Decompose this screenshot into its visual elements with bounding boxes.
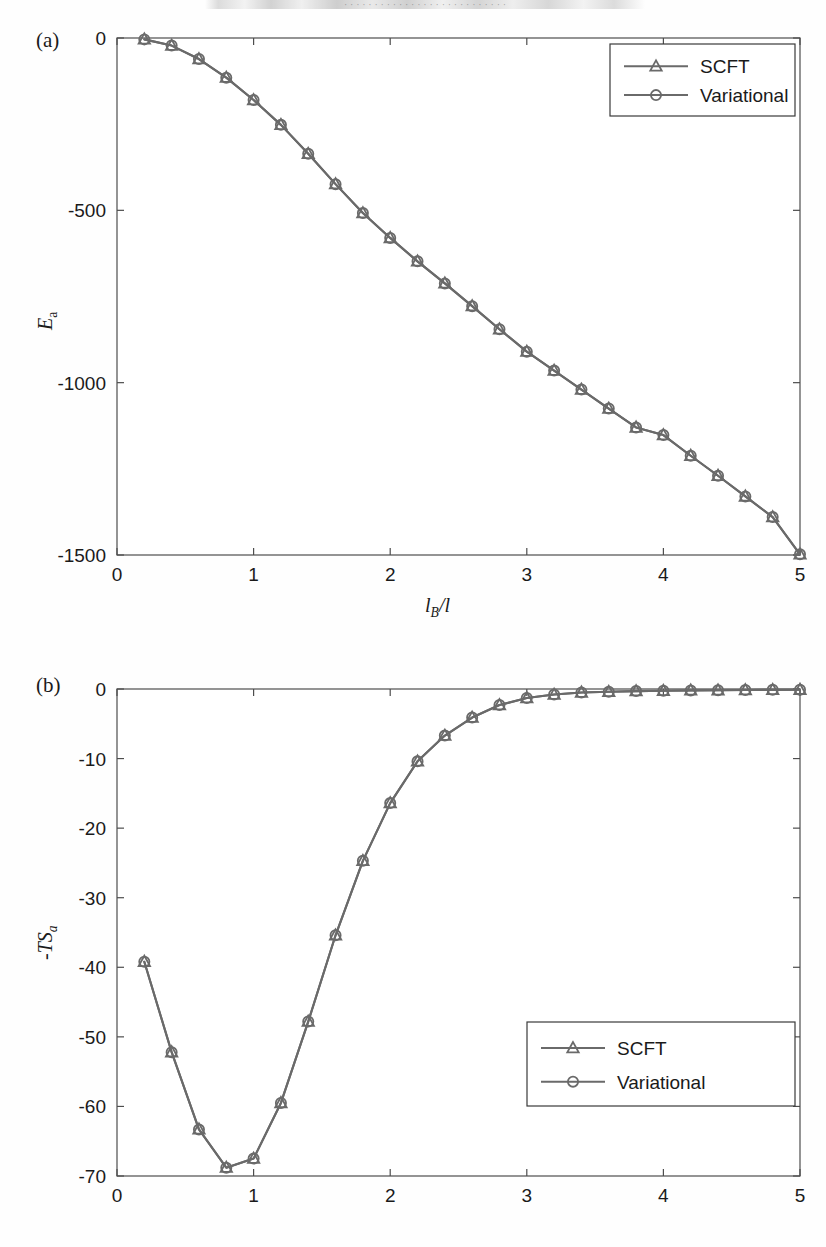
y-tick-label: -70	[79, 1166, 106, 1187]
panel-b-canvas: 0123450-10-20-30-40-50-60-70SCFTVariatio…	[0, 640, 826, 1247]
panel-a-ylabel-main: E	[34, 318, 56, 330]
legend[interactable]: SCFTVariational	[527, 1022, 795, 1106]
y-tick-label: -1000	[57, 373, 106, 394]
y-tick-label: -30	[79, 888, 106, 909]
y-tick-label: -1500	[57, 545, 106, 566]
figure-page: · · · · · · · · · · · · · · · · · · · · …	[0, 0, 826, 1247]
y-tick-label: -20	[79, 818, 106, 839]
x-tick-label: 1	[248, 1185, 259, 1206]
x-tick-label: 1	[248, 564, 259, 585]
panel-a-xlabel-tail: /l	[439, 594, 450, 616]
legend-label-scft: SCFT	[700, 56, 750, 77]
panel-a-canvas: 0123450-500-1000-1500SCFTVariational	[0, 0, 826, 640]
panel-b-ylabel-sub: a	[45, 925, 60, 932]
y-tick-label: -40	[79, 957, 106, 978]
panel-a-ylabel-sub: a	[45, 312, 60, 318]
legend-label-scft: SCFT	[617, 1038, 667, 1059]
x-tick-label: 5	[795, 1185, 806, 1206]
y-tick-label: -60	[79, 1096, 106, 1117]
x-tick-label: 3	[522, 564, 533, 585]
x-tick-label: 4	[658, 1185, 669, 1206]
x-tick-label: 0	[112, 1185, 123, 1206]
y-tick-label: -500	[68, 200, 106, 221]
panel-b: 0123450-10-20-30-40-50-60-70SCFTVariatio…	[0, 640, 826, 1247]
panel-a-tag: (a)	[36, 28, 59, 53]
x-tick-label: 4	[658, 564, 669, 585]
panel-a: 0123450-500-1000-1500SCFTVariational	[0, 0, 826, 640]
legend[interactable]: SCFTVariational	[610, 44, 795, 116]
y-tick-label: 0	[95, 679, 106, 700]
panel-a-ylabel: Ea	[34, 312, 61, 330]
legend-label-variational: Variational	[617, 1072, 705, 1093]
x-tick-label: 5	[795, 564, 806, 585]
x-tick-label: 3	[522, 1185, 533, 1206]
y-tick-label: -10	[79, 749, 106, 770]
x-tick-label: 2	[385, 564, 396, 585]
panel-a-xlabel-sub: B	[431, 605, 439, 620]
panel-b-ylabel-main: -TS	[34, 932, 56, 960]
panel-b-tag: (b)	[36, 673, 61, 698]
legend-label-variational: Variational	[700, 85, 788, 106]
y-tick-label: -50	[79, 1027, 106, 1048]
panel-b-ylabel: -TSa	[34, 925, 61, 960]
x-tick-label: 2	[385, 1185, 396, 1206]
x-tick-label: 0	[112, 564, 123, 585]
y-tick-label: 0	[95, 28, 106, 49]
panel-a-xlabel: lB/l	[425, 594, 450, 621]
